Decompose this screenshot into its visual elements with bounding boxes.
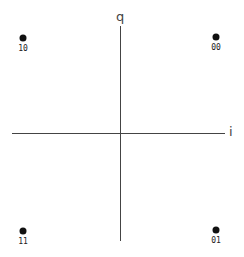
constellation-point-01 [213, 227, 220, 234]
symbol-label-10: 10 [18, 45, 28, 53]
constellation-point-11 [20, 228, 27, 235]
constellation-point-00 [213, 34, 220, 41]
symbol-label-00: 00 [211, 44, 221, 52]
q-axis-label: q [116, 10, 124, 23]
constellation-diagram: q i 10 00 11 01 [0, 0, 244, 257]
constellation-point-10 [20, 35, 27, 42]
symbol-label-11: 11 [18, 238, 28, 246]
i-axis-label: i [229, 125, 233, 138]
i-axis [12, 133, 225, 134]
symbol-label-01: 01 [211, 237, 221, 245]
